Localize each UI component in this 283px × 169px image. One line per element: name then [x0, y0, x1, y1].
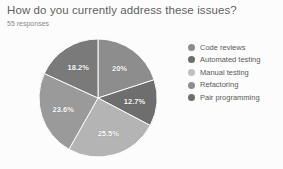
pie-slice-label: 23.6% [53, 105, 74, 114]
response-count: 55 responses [7, 20, 49, 27]
legend-item-label: Refactoring [200, 81, 238, 89]
legend-item[interactable]: Pair programming [188, 91, 283, 104]
legend-item-label: Code reviews [200, 44, 245, 52]
pie-slice-label: 25.5% [98, 129, 119, 138]
legend-color-dot-icon [188, 94, 195, 101]
legend-color-dot-icon [188, 69, 195, 76]
survey-result-card: How do you currently address these issue… [0, 0, 283, 169]
pie-slice-label: 18.2% [68, 63, 89, 72]
legend-color-dot-icon [188, 56, 195, 63]
legend-item[interactable]: Code reviews [188, 41, 283, 54]
legend-item-label: Manual testing [200, 69, 249, 77]
legend-item[interactable]: Automated testing [188, 54, 283, 67]
legend-color-dot-icon [188, 82, 195, 89]
page-title: How do you currently address these issue… [7, 4, 237, 16]
chart-legend: Code reviewsAutomated testingManual test… [188, 41, 283, 104]
legend-item[interactable]: Refactoring [188, 79, 283, 92]
legend-list: Code reviewsAutomated testingManual test… [188, 41, 283, 104]
pie-chart: 20%12.7%25.5%23.6%18.2% [39, 39, 157, 157]
legend-item-label: Automated testing [200, 56, 260, 64]
pie-slice-label: 20% [112, 64, 127, 73]
legend-color-dot-icon [188, 44, 195, 51]
pie-slice-label: 12.7% [124, 97, 145, 106]
legend-item-label: Pair programming [200, 94, 260, 102]
legend-item[interactable]: Manual testing [188, 66, 283, 79]
